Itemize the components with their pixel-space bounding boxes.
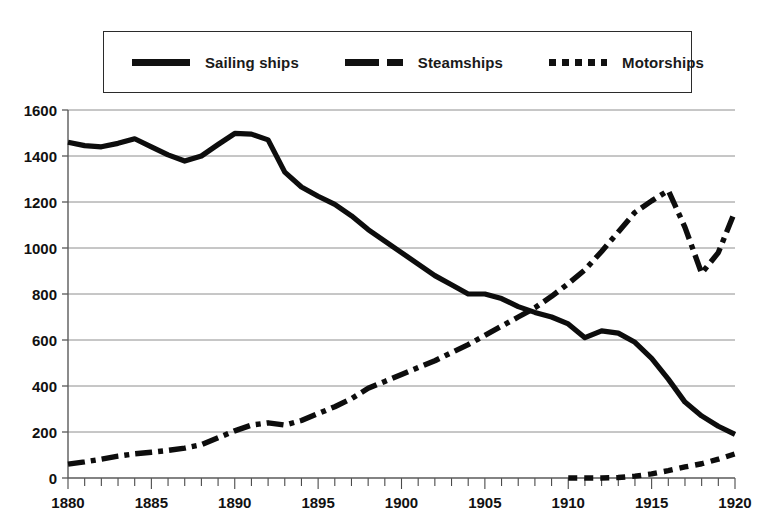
- y-axis-ticks: [62, 110, 68, 478]
- gridlines: [68, 110, 735, 432]
- chart-plot-area: 02004006008001000120014001600 1880188518…: [0, 0, 780, 524]
- y-axis-label-1200: 1200: [24, 194, 57, 211]
- x-axis-label-1910: 1910: [552, 494, 585, 511]
- x-axis-label-1920: 1920: [718, 494, 751, 511]
- y-axis-label-600: 600: [32, 332, 57, 349]
- x-axis-labels: 188018851890189519001905191019151920: [51, 494, 751, 511]
- y-axis-label-1000: 1000: [24, 240, 57, 257]
- x-axis-label-1895: 1895: [301, 494, 334, 511]
- x-axis-label-1900: 1900: [385, 494, 418, 511]
- y-axis-label-200: 200: [32, 424, 57, 441]
- y-axis-label-1600: 1600: [24, 102, 57, 119]
- x-axis-ticks: [68, 478, 735, 489]
- x-axis-label-1905: 1905: [468, 494, 501, 511]
- x-axis-label-1880: 1880: [51, 494, 84, 511]
- chart-container: Sailing ships Steamships Motorships 0200…: [0, 0, 780, 524]
- y-axis-labels: 02004006008001000120014001600: [24, 102, 57, 487]
- data-series: [68, 133, 735, 478]
- series-line-sailing-ships: [68, 133, 735, 434]
- x-axis-label-1890: 1890: [218, 494, 251, 511]
- series-line-motorships: [568, 454, 735, 478]
- y-axis-label-400: 400: [32, 378, 57, 395]
- x-axis-label-1885: 1885: [135, 494, 168, 511]
- x-axis-label-1915: 1915: [635, 494, 668, 511]
- y-axis-label-800: 800: [32, 286, 57, 303]
- y-axis-label-0: 0: [49, 470, 57, 487]
- y-axis-label-1400: 1400: [24, 148, 57, 165]
- series-line-steamships: [68, 191, 735, 465]
